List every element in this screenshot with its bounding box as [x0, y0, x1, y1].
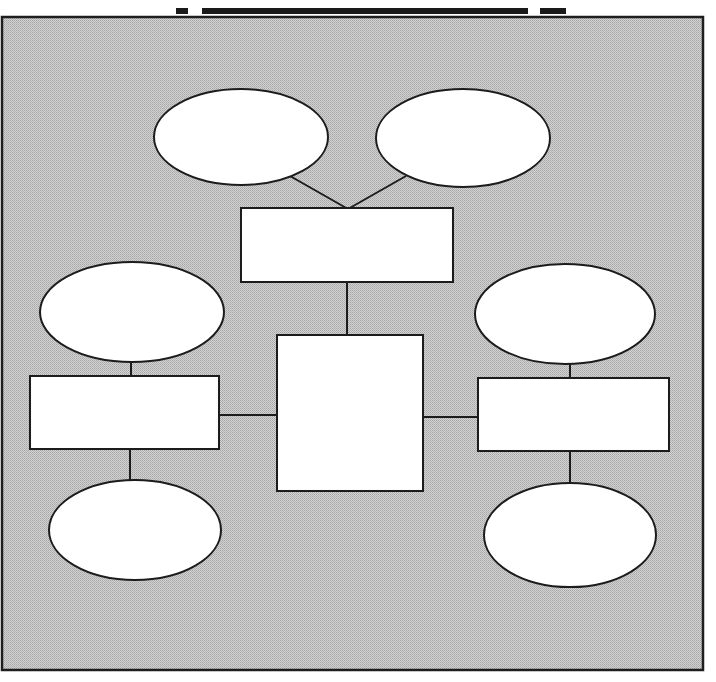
- concept-map-diagram: [0, 0, 716, 682]
- right-oval-shape[interactable]: [475, 264, 655, 364]
- top-left-oval-shape[interactable]: [154, 89, 328, 185]
- top-right-oval-node[interactable]: [376, 89, 550, 187]
- bottom-right-oval-node[interactable]: [484, 483, 656, 587]
- top-right-oval-shape[interactable]: [376, 89, 550, 187]
- top-left-oval-node[interactable]: [154, 89, 328, 185]
- left-oval-node[interactable]: [40, 262, 224, 362]
- bottom-right-oval-shape[interactable]: [484, 483, 656, 587]
- right-oval-node[interactable]: [475, 264, 655, 364]
- right-box-shape[interactable]: [478, 378, 669, 451]
- bottom-left-oval-shape[interactable]: [49, 480, 221, 580]
- center-box-node[interactable]: [277, 335, 423, 491]
- left-oval-shape[interactable]: [40, 262, 224, 362]
- right-box-node[interactable]: [478, 378, 669, 451]
- top-box-shape[interactable]: [241, 208, 453, 282]
- left-box-shape[interactable]: [30, 376, 219, 449]
- center-box-shape[interactable]: [277, 335, 423, 491]
- top-box-node[interactable]: [241, 208, 453, 282]
- left-box-node[interactable]: [30, 376, 219, 449]
- bottom-left-oval-node[interactable]: [49, 480, 221, 580]
